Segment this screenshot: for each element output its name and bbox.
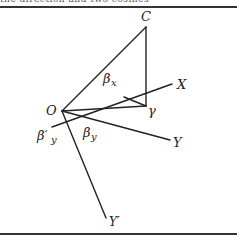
label-y-prime: Y′ (109, 215, 120, 229)
projection-bar (124, 97, 146, 106)
label-beta-x: β x (102, 71, 117, 88)
direction-cosines-diagram: C O X Y Y′ γ β x β y β′ y (0, 0, 237, 241)
svg-text:β′: β′ (36, 128, 48, 143)
svg-text:y: y (50, 134, 57, 145)
label-c: C (141, 9, 151, 24)
label-beta-prime-y: β′ y (36, 128, 57, 145)
svg-text:β: β (102, 71, 111, 86)
label-y: Y (173, 135, 183, 150)
label-beta-y: β y (82, 125, 97, 142)
label-gamma: γ (148, 103, 156, 118)
label-x: X (176, 77, 187, 92)
svg-text:β: β (82, 125, 91, 140)
svg-text:y: y (90, 131, 97, 142)
svg-text:x: x (111, 77, 117, 88)
label-o: O (46, 103, 57, 118)
